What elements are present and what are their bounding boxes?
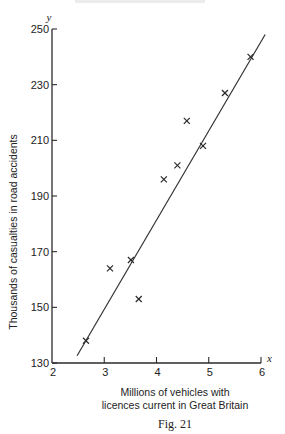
y-tick-label: 150 (31, 301, 49, 313)
x-axis-label: Millions of vehicles with licences curre… (70, 386, 280, 412)
y-tick-label: 190 (31, 190, 49, 202)
x-tick-label: 4 (154, 366, 160, 378)
data-point-x-marker (161, 176, 167, 182)
x-axis-label-line1: Millions of vehicles with (70, 386, 280, 399)
figure-caption: Fig. 21 (70, 417, 280, 432)
y-tick-label: 250 (31, 23, 49, 35)
x-tick-label: 5 (207, 366, 213, 378)
y-tick-label: 170 (31, 246, 49, 258)
data-point-x-marker (136, 296, 142, 302)
x-variable-label: x (266, 352, 272, 364)
scatter-plot: 13015017019021023025023456yx (0, 0, 285, 434)
y-tick-label: 230 (31, 79, 49, 91)
data-point-x-marker (174, 162, 180, 168)
x-tick-label: 3 (102, 366, 108, 378)
x-axis-label-line2: licences current in Great Britain (70, 399, 280, 412)
regression-line (77, 35, 265, 356)
x-tick-label: 2 (50, 366, 56, 378)
y-tick-label: 210 (31, 134, 49, 146)
data-point-x-marker (83, 338, 89, 344)
y-axis-label: Thousands of casualties in road accident… (7, 102, 19, 362)
y-variable-label: y (46, 11, 52, 23)
y-tick-label: 130 (31, 357, 49, 369)
data-point-x-marker (222, 90, 228, 96)
data-point-x-marker (200, 143, 206, 149)
data-point-x-marker (107, 265, 113, 271)
x-tick-label: 6 (259, 366, 265, 378)
data-point-x-marker (184, 118, 190, 124)
